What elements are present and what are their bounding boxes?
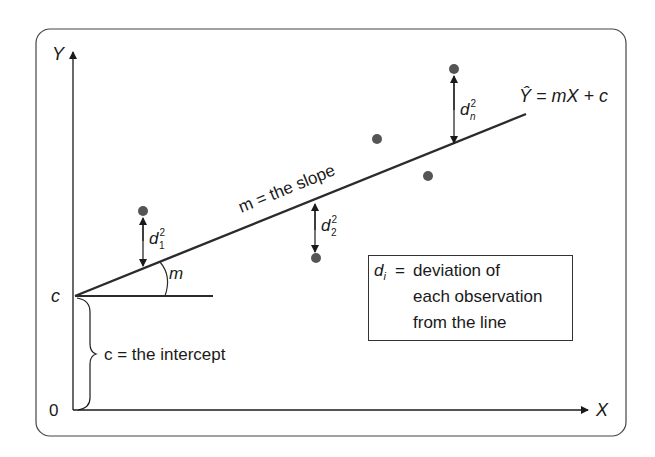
subscript: i: [383, 270, 385, 282]
legend-equals: =: [395, 261, 405, 281]
intercept-tick-label: c: [51, 287, 60, 305]
d-symbol: d: [149, 229, 158, 248]
legend-line-1: deviation of: [413, 261, 500, 281]
superscript: 2: [159, 227, 165, 238]
observation-point: [138, 206, 148, 216]
deviation-label-1: d21: [149, 230, 170, 247]
legend-symbol: di: [374, 261, 386, 281]
deviation-label-2: d22: [321, 217, 342, 234]
legend-line-2: each observation: [413, 287, 542, 307]
x-axis-label: X: [596, 401, 608, 419]
d-symbol: d: [321, 216, 330, 235]
observation-point: [311, 253, 321, 263]
legend-box: di = deviation of each observation from …: [368, 255, 573, 341]
superscript: 2: [331, 214, 337, 225]
slope-angle-arc: [160, 262, 168, 296]
regression-equation: Ŷ = mX + c: [519, 87, 608, 105]
d-symbol: d: [460, 100, 469, 119]
observation-point: [423, 171, 433, 181]
subscript: n: [470, 111, 476, 122]
y-axis-label: Y: [52, 45, 64, 63]
angle-label: m: [169, 265, 183, 282]
observation-point: [449, 64, 459, 74]
superscript: 2: [470, 98, 476, 109]
subscript: 1: [159, 240, 165, 251]
observation-point: [372, 134, 382, 144]
legend-line-3: from the line: [413, 313, 507, 333]
intercept-label: c = the intercept: [104, 346, 225, 363]
intercept-brace: [77, 298, 96, 410]
subscript: 2: [331, 227, 337, 238]
origin-label: 0: [49, 402, 58, 419]
deviation-label-n: d2n: [460, 101, 481, 118]
